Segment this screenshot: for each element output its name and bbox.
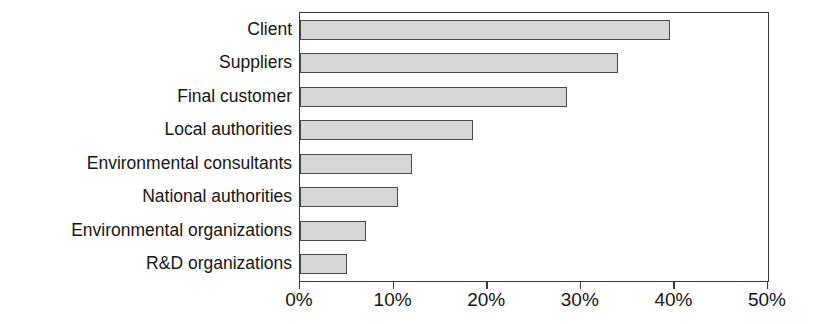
y-axis-label-4: Environmental consultants [2,153,292,173]
y-axis-label-5: National authorities [2,186,292,206]
y-axis-label-7: R&D organizations [2,253,292,273]
x-tick-label-4: 40% [654,288,692,312]
plot-area [299,12,769,282]
x-tick-label-5: 50% [748,288,786,312]
x-tick-label-0: 0% [285,288,312,312]
bar-3 [300,120,473,140]
x-tick-label-2: 20% [467,288,505,312]
bar-1 [300,53,618,73]
bar-chart: Client Suppliers Final customer Local au… [0,0,822,324]
x-tick-label-3: 30% [561,288,599,312]
y-axis-label-2: Final customer [2,86,292,106]
x-axis-tick-labels: 0% 10% 20% 30% 40% 50% [0,288,822,320]
bar-4 [300,154,412,174]
y-axis-label-3: Local authorities [2,119,292,139]
x-tick-label-1: 10% [374,288,412,312]
bar-7 [300,254,347,274]
bar-6 [300,221,366,241]
y-axis-label-1: Suppliers [2,52,292,72]
bar-0 [300,20,670,40]
y-axis-category-labels: Client Suppliers Final customer Local au… [0,12,296,280]
y-axis-label-6: Environmental organizations [2,220,292,240]
bar-2 [300,87,567,107]
bar-5 [300,187,398,207]
y-axis-label-0: Client [2,19,292,39]
bars-layer [300,13,768,281]
